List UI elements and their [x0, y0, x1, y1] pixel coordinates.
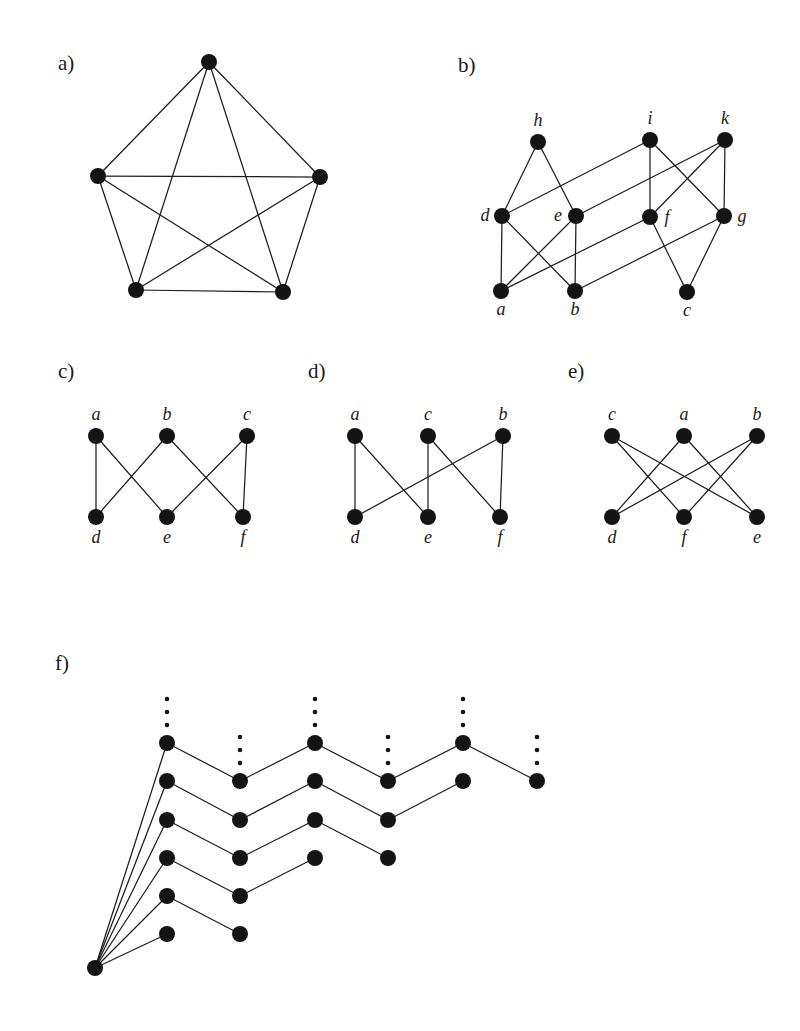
- vertex-d-c: [420, 428, 436, 444]
- vertex-label-c-b: b: [163, 404, 172, 424]
- continuation-dot: [238, 748, 243, 753]
- vertex-f-c3r4: [307, 850, 323, 866]
- vertex-e-d: [604, 509, 620, 525]
- graph-figure-canvas: a)b)hikdefgabcc)abcdefd)acbdefe)cabdfef): [0, 0, 800, 1031]
- edge-c1r3-c2r4: [167, 820, 240, 858]
- vertex-label-e-f: f: [681, 527, 689, 547]
- edge-left-bottom-left: [98, 176, 136, 290]
- vertex-f-c6r2: [529, 773, 545, 789]
- edge-left-bottom-right: [98, 176, 283, 292]
- edge-f-c: [650, 217, 687, 292]
- vertex-f-c1r1: [159, 735, 175, 751]
- edge-d-i: [502, 140, 650, 216]
- vertex-label-b-f: f: [664, 207, 672, 227]
- edge-b-f: [500, 436, 503, 517]
- figure-root: a)b)hikdefgabcc)abcdefd)acbdefe)cabdfef): [0, 0, 800, 1031]
- panel-label-e: e): [568, 359, 584, 383]
- continuation-dot: [165, 723, 170, 728]
- panel-a: a): [58, 51, 328, 300]
- panel-e-vertices: cabdfe: [604, 404, 765, 547]
- panel-label-a: a): [58, 51, 74, 75]
- dots-above-c5r1: [461, 697, 466, 728]
- panel-b-edges: [501, 140, 725, 292]
- edge-k-g: [724, 140, 725, 216]
- vertex-f-c4r3: [380, 812, 396, 828]
- vertex-c-c: [239, 428, 255, 444]
- vertex-b-i: [642, 132, 658, 148]
- vertex-label-c-c: c: [243, 404, 251, 424]
- continuation-dot: [386, 748, 391, 753]
- dots-above-c6r2: [535, 735, 540, 766]
- panel-a-edges: [98, 62, 320, 292]
- vertex-a-top: [201, 54, 217, 70]
- vertex-label-b-e: e: [554, 205, 562, 225]
- edge-top-left: [98, 62, 209, 176]
- vertex-f-c1r4: [159, 850, 175, 866]
- edge-g-c: [687, 216, 724, 292]
- edge-c2r4-c3r3: [240, 820, 315, 858]
- panel-b: b)hikdefgabc: [458, 53, 747, 320]
- panel-f: f): [55, 651, 545, 976]
- vertex-label-b-k: k: [721, 108, 730, 128]
- continuation-dot: [238, 761, 243, 766]
- vertex-label-e-a: a: [680, 404, 689, 424]
- vertex-b-h: [530, 134, 546, 150]
- panel-label-b: b): [458, 53, 476, 77]
- continuation-dot: [386, 761, 391, 766]
- vertex-b-d: [494, 208, 510, 224]
- dots-above-c3r1: [313, 697, 318, 728]
- panel-e-edges: [612, 436, 757, 517]
- edge-right-bottom-left: [136, 177, 320, 290]
- panel-label-d: d): [308, 359, 326, 383]
- vertex-e-e: [749, 509, 765, 525]
- edge-c3r1-c4r2: [315, 743, 388, 781]
- continuation-dot: [313, 697, 318, 702]
- vertex-label-e-c: c: [608, 404, 616, 424]
- vertex-a-right: [312, 169, 328, 185]
- vertex-f-root: [87, 960, 103, 976]
- vertex-label-d-a: a: [351, 404, 360, 424]
- edge-right-bottom-right: [283, 177, 320, 292]
- vertex-e-f: [676, 509, 692, 525]
- vertex-label-d-c: c: [424, 404, 432, 424]
- edge-c1r1-c2r2: [167, 743, 240, 781]
- vertex-label-b-d: d: [481, 205, 491, 225]
- vertex-label-d-e: e: [424, 527, 432, 547]
- vertex-f-c4r4: [380, 850, 396, 866]
- vertex-label-d-b: b: [499, 404, 508, 424]
- vertex-f-c1r2: [159, 773, 175, 789]
- edge-c3r3-c4r4: [315, 820, 388, 858]
- vertex-d-b: [495, 428, 511, 444]
- vertex-label-b-c: c: [683, 300, 691, 320]
- edge-root-c1r1: [95, 743, 167, 968]
- panel-e: e)cabdfe: [568, 359, 765, 547]
- vertex-b-f: [642, 209, 658, 225]
- vertex-label-e-e: e: [753, 527, 761, 547]
- vertex-f-c5r2: [455, 773, 471, 789]
- vertex-label-c-e: e: [163, 527, 171, 547]
- panel-d-vertices: acbdef: [347, 404, 511, 547]
- edge-bottom-left-bottom-right: [136, 290, 283, 292]
- panel-c: c)abcdef: [58, 359, 255, 547]
- vertex-d-a: [347, 428, 363, 444]
- edge-root-c1r3: [95, 820, 167, 968]
- continuation-dot: [165, 710, 170, 715]
- vertex-label-d-d: d: [351, 527, 361, 547]
- vertex-b-b: [567, 283, 583, 299]
- vertex-label-c-a: a: [92, 404, 101, 424]
- continuation-dot: [461, 723, 466, 728]
- edge-c-f: [428, 436, 500, 517]
- vertex-c-b: [159, 428, 175, 444]
- panel-d: d)acbdef: [308, 359, 511, 547]
- vertex-b-g: [716, 208, 732, 224]
- vertex-e-a: [676, 428, 692, 444]
- continuation-dot: [535, 761, 540, 766]
- dots-above-c2r2: [238, 735, 243, 766]
- edge-b-d: [355, 436, 503, 517]
- edge-c1r5-c2r6: [167, 896, 240, 934]
- vertex-label-c-f: f: [240, 527, 248, 547]
- dots-above-c1r1: [165, 697, 170, 728]
- vertex-f-c1r5: [159, 888, 175, 904]
- panel-d-edges: [355, 436, 503, 517]
- vertex-c-a: [88, 428, 104, 444]
